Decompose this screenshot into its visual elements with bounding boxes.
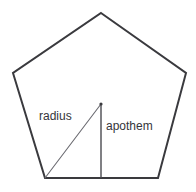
radius-label: radius [39,110,72,122]
apothem-label: apothem [106,120,153,132]
geometry-canvas [0,0,196,192]
pentagon-diagram: radius apothem [0,0,196,192]
center-point-dot [99,102,102,105]
pentagon-outline [13,13,186,178]
